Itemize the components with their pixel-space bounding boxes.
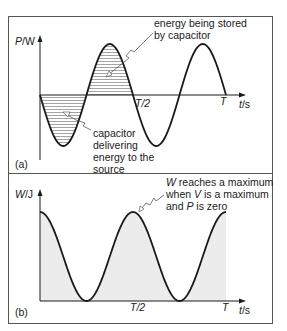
diagram-canvas: P/W t/s T/2 T (a) energy being stored by… (0, 0, 287, 331)
annotation-delivering-line1: capacitor (93, 127, 136, 139)
y-axis-label: W/J (15, 188, 33, 200)
tick-half-period: T/2 (130, 301, 145, 313)
x-axis-arrow-icon (239, 299, 246, 304)
annotation-line2: when V is a maximum (165, 188, 269, 200)
annotation-line1: W reaches a maximum (166, 176, 274, 188)
y-axis-label: P/W (15, 35, 35, 47)
x-axis-label: t/s (239, 304, 250, 316)
energy-area-shade (40, 212, 226, 301)
x-axis-label: t/s (239, 98, 250, 110)
leader-max-arrow-icon (139, 206, 144, 212)
panel-b: W/J t/s T/2 T (b) W reaches a maximum wh… (15, 176, 274, 318)
panel-label-b: (b) (15, 306, 28, 318)
y-axis-arrow-icon (38, 35, 43, 42)
annotation-delivering-line2: delivering (93, 139, 138, 151)
annotation-stored-line2: by capacitor (154, 29, 211, 41)
annotation-stored-line1: energy being stored (154, 17, 247, 29)
y-axis-arrow-icon (38, 189, 43, 196)
tick-half-period: T/2 (135, 97, 150, 109)
tick-period: T (222, 301, 230, 313)
x-axis-arrow-icon (239, 93, 246, 98)
annotation-delivering-line3: energy to the (93, 151, 154, 163)
annotation-line3: and P is zero (166, 200, 227, 212)
panel-label-a: (a) (15, 158, 28, 170)
leader-max (141, 195, 164, 209)
tick-period: T (220, 95, 228, 107)
annotation-delivering-line4: source (93, 163, 125, 175)
panel-a: P/W t/s T/2 T (a) energy being stored by… (15, 17, 250, 175)
